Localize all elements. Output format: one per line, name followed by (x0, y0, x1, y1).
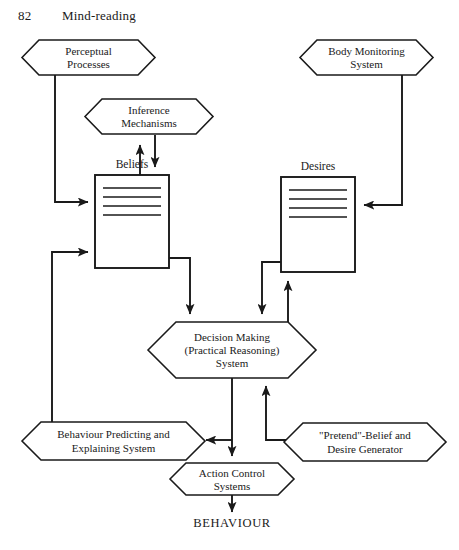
action-control-line2: Systems (214, 480, 251, 492)
node-behaviour-predicting-system[interactable]: Behaviour Predicting and Explaining Syst… (22, 422, 205, 460)
behaviour-output-label: BEHAVIOUR (193, 516, 270, 530)
node-desires[interactable]: Desires (281, 160, 355, 272)
edge-perceptual-to-beliefs (55, 75, 88, 202)
edge-behaviour-predicting-to-beliefs (52, 252, 88, 422)
node-inference-mechanisms[interactable]: Inference Mechanisms (85, 99, 213, 134)
edge-bodymonitoring-to-desires (364, 75, 402, 205)
pretend-belief-line1: "Pretend"-Belief and (319, 429, 411, 441)
node-decision-making-system[interactable]: Decision Making (Practical Reasoning) Sy… (148, 322, 316, 378)
body-monitoring-line1: Body Monitoring (328, 45, 405, 57)
inference-mechanisms-line2: Mechanisms (121, 117, 177, 129)
behaviour-predicting-line2: Explaining System (72, 442, 156, 454)
node-behaviour-output: BEHAVIOUR (193, 516, 270, 530)
edge-pretend-to-decision (266, 386, 290, 440)
decision-making-line3: System (216, 357, 249, 369)
node-perceptual-processes[interactable]: Perceptual Processes (22, 40, 155, 75)
desires-caption: Desires (301, 160, 336, 172)
mind-reading-diagram: Perceptual Processes Body Monitoring Sys… (0, 0, 459, 550)
node-pretend-belief-desire-generator[interactable]: "Pretend"-Belief and Desire Generator (284, 423, 446, 461)
perceptual-processes-line2: Processes (67, 58, 110, 70)
edge-desires-to-decision (262, 262, 282, 314)
action-control-line1: Action Control (199, 467, 265, 479)
node-body-monitoring-system[interactable]: Body Monitoring System (300, 40, 433, 75)
page-canvas: 82 Mind-reading (0, 0, 459, 550)
edge-beliefs-to-decision (169, 258, 190, 314)
decision-making-line1: Decision Making (194, 331, 271, 343)
node-beliefs[interactable]: Beliefs (95, 158, 169, 268)
pretend-belief-line2: Desire Generator (327, 443, 403, 455)
beliefs-caption: Beliefs (116, 158, 149, 170)
node-action-control-systems[interactable]: Action Control Systems (170, 463, 294, 495)
body-monitoring-line2: System (350, 58, 383, 70)
perceptual-processes-line1: Perceptual (65, 45, 111, 57)
behaviour-predicting-line1: Behaviour Predicting and (57, 428, 170, 440)
decision-making-line2: (Practical Reasoning) (185, 344, 280, 357)
inference-mechanisms-line1: Inference (128, 104, 170, 116)
